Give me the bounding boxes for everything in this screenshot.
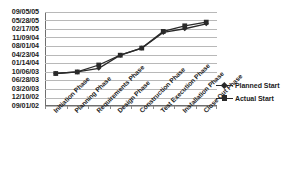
data-point-marker — [75, 69, 80, 74]
data-point-marker — [161, 29, 166, 34]
data-point-marker — [182, 23, 187, 28]
series-line-planned-start — [56, 23, 207, 73]
data-point-marker — [96, 62, 101, 67]
data-point-marker — [118, 52, 123, 57]
x-axis-labels: Initiation PhasePlanning PhaseRequiremen… — [45, 107, 235, 185]
data-point-marker — [139, 45, 144, 50]
data-point-marker — [53, 71, 58, 76]
legend-item-planned-start: Planned Start — [216, 79, 292, 92]
planned-start-marker-icon — [216, 81, 233, 90]
legend-label-actual-start: Actual Start — [233, 95, 274, 102]
chart-legend: Planned Start Actual Start — [216, 79, 292, 105]
actual-start-marker-icon — [216, 94, 233, 103]
y-axis-tick-label: 09/01/02 — [0, 102, 42, 111]
legend-item-actual-start: Actual Start — [216, 92, 292, 105]
chart-container: 09/05/0505/28/0502/17/0511/09/0408/01/04… — [0, 0, 294, 185]
data-point-marker — [204, 19, 209, 24]
legend-label-planned-start: Planned Start — [233, 82, 279, 89]
y-axis-labels: 09/05/0505/28/0502/17/0511/09/0408/01/04… — [0, 8, 42, 111]
